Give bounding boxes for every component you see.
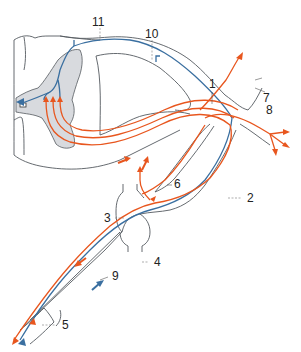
- label-6: 6: [174, 178, 181, 190]
- peripheral-nerve-trunk: [20, 308, 61, 344]
- arrow-upper-branch: [236, 52, 243, 60]
- arrow-ramus-6: [150, 196, 156, 202]
- label-3: 3: [104, 212, 111, 224]
- nerve-outer-contour: [40, 88, 270, 214]
- arrow-peripheral-end: [12, 337, 19, 345]
- label-4: 4: [154, 256, 161, 268]
- sympathetic-ganglia: [20, 184, 150, 330]
- label-1: 1: [209, 78, 216, 90]
- label-11: 11: [92, 16, 104, 28]
- dorsal-root-sheath: [60, 36, 248, 135]
- arrow-branch-3: [272, 149, 278, 156]
- label-2: 2: [247, 192, 254, 204]
- spinal-nerve-diagram: [0, 0, 301, 352]
- label-5: 5: [62, 319, 69, 331]
- label-10: 10: [145, 28, 158, 40]
- gray-matter: [16, 49, 82, 148]
- arrow-branch-1: [283, 129, 290, 135]
- label-9: 9: [112, 270, 119, 282]
- arrow-afferent-start: [18, 338, 26, 346]
- label-8: 8: [266, 104, 273, 116]
